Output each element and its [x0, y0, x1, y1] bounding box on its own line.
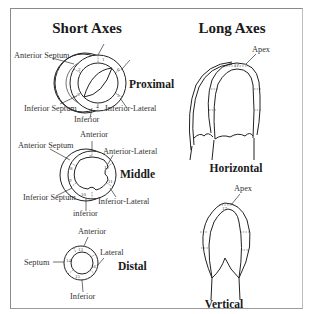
label-apex: Apex — [252, 45, 271, 54]
label-septum: Septum — [24, 258, 50, 267]
segment-16: 16 — [91, 264, 97, 269]
label-anterior: Anterior — [78, 227, 106, 236]
label-inferior: inferior — [73, 209, 98, 218]
label-inferior: Inferior — [74, 115, 100, 124]
segment-11: 11 — [108, 179, 113, 184]
label-anterior-septum: Anterior Septum — [14, 51, 70, 60]
short-axes-title: Short Axes — [52, 20, 122, 36]
label-apex: Apex — [234, 184, 253, 193]
label-inferior-septum: Inferior Septum — [23, 193, 76, 202]
proximal-short-axis: 1 2 3 4 5 6 Anterior Septum Proximal Inf… — [14, 44, 174, 124]
section-middle: Middle — [120, 168, 155, 180]
horizontal-long-axis: 17 Apex Horizontal — [189, 45, 270, 174]
long-axes-title: Long Axes — [198, 20, 265, 36]
label-anterior-septum: Anterior Septum — [18, 141, 74, 150]
section-distal: Distal — [118, 260, 147, 272]
section-proximal: Proximal — [129, 78, 174, 90]
segment-14: 14 — [66, 258, 72, 263]
heart-segment-diagram: Short Axes Long Axes 1 2 3 4 5 6 — [0, 0, 309, 314]
section-vertical: Vertical — [205, 298, 244, 310]
segment-12: 12 — [104, 165, 110, 170]
segment-15: 15 — [75, 274, 81, 279]
distal-short-axis: 13 14 15 16 Anterior Lateral Septum Dist… — [24, 227, 147, 301]
label-anterior-lateral: Anterior-Lateral — [103, 147, 158, 156]
apex-segment-17: 17 — [222, 206, 228, 211]
segment-13: 13 — [78, 247, 84, 252]
vertical-long-axis: 17 Apex Vertical — [200, 184, 253, 310]
label-inferior-septum: Inferior Septum — [24, 104, 77, 113]
label-anterior: Anterior — [80, 130, 108, 139]
label-lateral: Lateral — [100, 248, 124, 257]
middle-short-axis: 7 8 9 10 11 12 Anterior Anterior Septum … — [18, 130, 158, 218]
segment-10: 10 — [81, 192, 87, 197]
label-inferior: Inferior — [70, 292, 96, 301]
label-inferior-lateral: Inferior-Lateral — [105, 104, 157, 113]
label-inferior-lateral: Inferior-Lateral — [98, 197, 150, 206]
apex-segment-17: 17 — [234, 63, 240, 68]
section-horizontal: Horizontal — [209, 162, 262, 174]
